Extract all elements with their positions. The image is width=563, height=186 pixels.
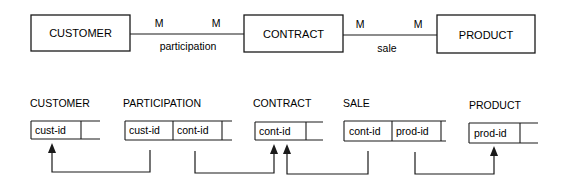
fk-arrow-participation-to-contract [195, 144, 278, 173]
table-sale: SALE cont-id prod-id [343, 97, 446, 141]
table-participation-name: PARTICIPATION [123, 97, 201, 109]
arrowhead-icon [490, 146, 498, 156]
entity-product-label: PRODUCT [459, 29, 514, 41]
cardinality-right: M [414, 18, 423, 30]
column-prod-id: prod-id [396, 125, 429, 137]
table-customer: CUSTOMER cust-id [30, 97, 100, 139]
arrowhead-icon [48, 143, 56, 153]
fk-arrow-sale-to-contract [283, 144, 368, 174]
cardinality-left: M [356, 18, 365, 30]
relationship-participation-label: participation [160, 40, 217, 52]
cardinality-right: M [212, 17, 221, 29]
relationship-sale-label: sale [377, 42, 396, 54]
arrowhead-icon [283, 144, 291, 154]
relationship-participation: M M participation [130, 17, 244, 52]
column-cont-id: cont-id [177, 124, 209, 136]
entity-contract-label: CONTRACT [263, 28, 324, 40]
cardinality-left: M [155, 17, 164, 29]
column-cont-id: cont-id [259, 125, 291, 137]
column-cont-id: cont-id [349, 125, 381, 137]
entity-contract: CONTRACT [244, 15, 343, 52]
table-product: PRODUCT prod-id [469, 99, 538, 143]
fk-arrow-sale-to-product [415, 146, 498, 174]
column-cust-id: cust-id [35, 124, 66, 136]
entity-customer-label: CUSTOMER [49, 27, 112, 39]
column-cust-id: cust-id [129, 124, 160, 136]
relationship-sale: M M sale [343, 18, 437, 54]
entity-product: PRODUCT [437, 15, 535, 53]
column-prod-id: prod-id [474, 127, 507, 139]
fk-arrow-participation-to-customer [48, 143, 150, 172]
arrowhead-icon [270, 144, 278, 154]
table-contract: CONTRACT cont-id [253, 97, 323, 140]
table-participation: PARTICIPATION cust-id cont-id [123, 97, 232, 140]
table-sale-name: SALE [343, 97, 370, 109]
er-and-relational-diagram: CUSTOMER CONTRACT PRODUCT M M participat… [0, 0, 563, 186]
table-contract-name: CONTRACT [253, 97, 312, 109]
entity-customer: CUSTOMER [31, 15, 130, 51]
table-product-name: PRODUCT [469, 99, 522, 111]
table-customer-name: CUSTOMER [30, 97, 90, 109]
